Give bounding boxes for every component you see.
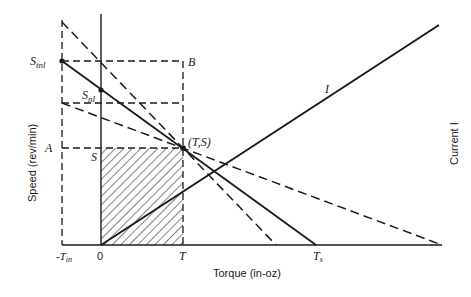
snl-label: Snl	[82, 88, 96, 104]
current-i-label: I	[324, 82, 330, 96]
y-axis-title: Speed (rev/min)	[26, 124, 38, 202]
b-label: B	[188, 55, 196, 69]
ts-point	[180, 145, 186, 151]
stnl-point	[59, 58, 64, 63]
ts-label: (T,S)	[188, 135, 211, 149]
hatched-region	[101, 148, 183, 245]
tick-t: T	[179, 249, 187, 263]
snl-point	[98, 87, 103, 92]
tick-neg-tin: -Tin	[56, 250, 72, 264]
x-axis-title: Torque (in-oz)	[213, 267, 281, 279]
y2-axis-title: Current I	[448, 122, 460, 165]
s-label: S	[91, 150, 97, 164]
tick-zero: 0	[97, 250, 103, 262]
a-label: A	[44, 141, 53, 155]
tick-ts: Ts	[313, 249, 323, 264]
stnl-label: Stnl	[30, 54, 46, 70]
torque-speed-diagram: Stnl Snl B A S (T,S) I -Tin 0 T Ts Torqu…	[0, 0, 471, 297]
